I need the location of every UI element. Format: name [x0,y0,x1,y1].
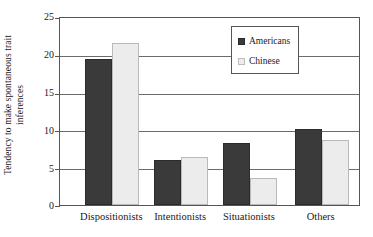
dark-square-swatch-icon [238,38,245,45]
bar-others-chinese [322,140,349,205]
y-tick-label-0: 0 [32,201,54,211]
tickmark-20 [55,56,60,57]
y-tick-label-15: 15 [32,88,54,98]
bar-others-americans [295,129,322,205]
bar-chart: Tendency to make spontaneous trait infer… [0,0,373,237]
light-square-swatch-icon [238,58,245,65]
bar-dispositionists-chinese [112,43,139,205]
x-cat-label-others: Others [283,211,358,223]
legend: Americans Chinese [231,26,299,74]
tickmark-5 [55,169,60,170]
bar-intentionists-americans [154,160,181,205]
tickmark-25 [55,18,60,19]
y-axis-title-line-2: inferences [14,35,26,175]
legend-label-chinese: Chinese [249,56,280,66]
y-tick-label-20: 20 [32,50,54,60]
y-tick-label-5: 5 [32,164,54,174]
legend-entry-chinese: Chinese [238,56,280,66]
bar-intentionists-chinese [181,157,208,205]
legend-label-americans: Americans [249,36,290,46]
x-cat-label-intentionists: Intentionists [143,211,218,223]
y-axis-title: Tendency to make spontaneous trait infer… [0,0,28,210]
y-tick-label-10: 10 [32,126,54,136]
legend-entry-americans: Americans [238,36,290,46]
bar-situationists-americans [223,143,250,205]
y-tick-label-25: 25 [32,12,54,22]
tickmark-10 [55,131,60,132]
tickmark-15 [55,94,60,95]
bar-dispositionists-americans [85,59,112,205]
bar-situationists-chinese [250,178,277,205]
x-cat-label-situationists: Situationists [211,211,286,223]
gridline-20 [60,56,359,57]
plot-area [59,17,360,206]
x-cat-label-dispositionists: Dispositionists [74,211,149,223]
y-axis-title-line-1: Tendency to make spontaneous trait [3,35,13,175]
tickmark-0 [55,206,60,207]
